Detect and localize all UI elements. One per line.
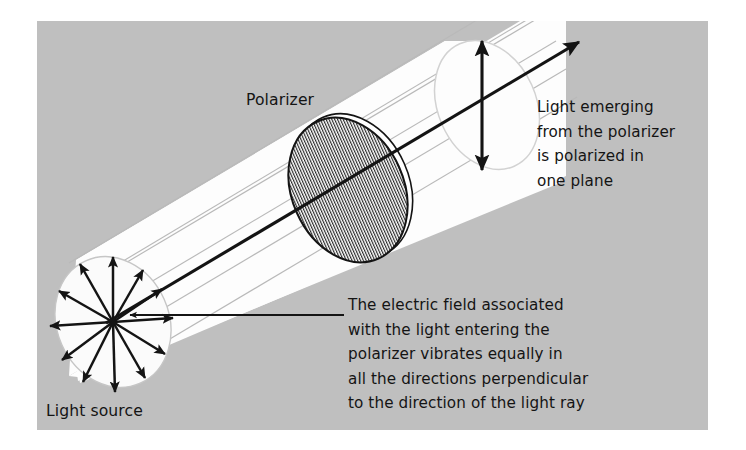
emerging-callout-line-1: Light emerging <box>537 98 654 116</box>
efield-callout-line-2: with the light entering the <box>348 321 550 339</box>
figure-root: Polarizer Light source Light emerging fr… <box>0 0 746 450</box>
electric-field-callout: The electric field associated with the l… <box>347 296 589 412</box>
efield-callout-line-1: The electric field associated <box>347 296 564 314</box>
polarizer-label: Polarizer <box>246 91 315 109</box>
light-source-label: Light source <box>46 402 143 420</box>
emerging-callout-line-3: is polarized in <box>537 147 644 165</box>
emerging-callout-line-4: one plane <box>537 172 613 190</box>
efield-callout-line-3: polarizer vibrates equally in <box>348 345 563 363</box>
polarization-diagram: Polarizer Light source Light emerging fr… <box>0 0 746 450</box>
efield-callout-line-4: all the directions perpendicular <box>348 370 589 388</box>
efield-callout-line-5: to the direction of the light ray <box>348 394 585 412</box>
emerging-callout-line-2: from the polarizer <box>537 123 676 141</box>
